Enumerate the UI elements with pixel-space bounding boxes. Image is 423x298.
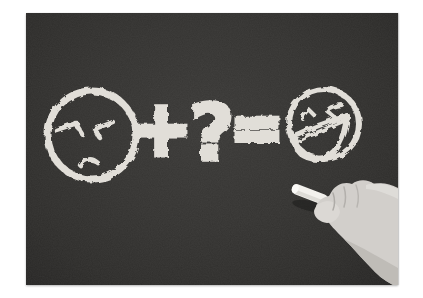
equals-sign: = [231, 91, 283, 164]
chalkboard-scene: + ? = [26, 13, 398, 285]
plus-sign: + [129, 84, 193, 173]
page: + ? = [0, 0, 423, 298]
chalkboard-photo: + ? = [26, 13, 398, 285]
question-mark: ? [189, 88, 234, 178]
